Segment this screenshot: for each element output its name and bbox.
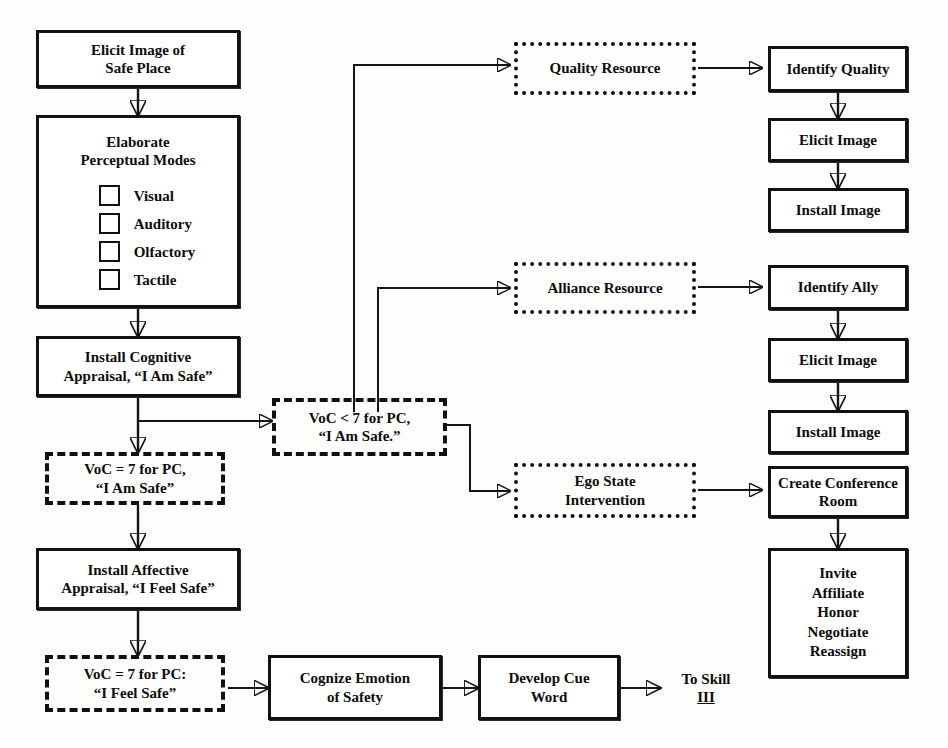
node-voc-equals-7-i-feel-safe[interactable]: VoC = 7 for PC: “I Feel Safe”	[45, 655, 225, 712]
node-alliance-resource[interactable]: Alliance Resource	[514, 262, 696, 314]
node-line: Identify Ally	[798, 278, 878, 296]
node-install-affective-appraisal[interactable]: Install Affective Appraisal, “I Feel Saf…	[36, 548, 240, 610]
checkbox-icon[interactable]	[99, 213, 120, 234]
flowchart-canvas: Elicit Image of Safe Place Elaborate Per…	[0, 0, 948, 748]
node-conference-actions[interactable]: Invite Affiliate Honor Negotiate Reassig…	[768, 548, 908, 678]
node-to-skill-iii: To Skill III	[660, 664, 752, 712]
elaborate-title: Elaborate Perceptual Modes	[80, 133, 195, 170]
node-line: Safe Place	[105, 59, 170, 77]
edge-voc-less7-to-quality	[354, 65, 510, 412]
node-line: Affiliate	[812, 584, 864, 604]
node-elaborate-perceptual-modes[interactable]: Elaborate Perceptual Modes Visual Audito…	[36, 115, 240, 308]
edge-voc-less7-to-egostate	[447, 425, 510, 491]
node-line: Elicit Image	[799, 351, 877, 369]
node-line: VoC = 7 for PC,	[84, 460, 185, 478]
mode-label: Visual	[134, 187, 174, 205]
node-line: “I Am Safe”	[96, 479, 174, 497]
mode-label: Tactile	[134, 271, 177, 289]
node-line: Alliance Resource	[547, 279, 662, 297]
node-line: Install Image	[796, 201, 881, 219]
node-voc-equals-7-i-am-safe[interactable]: VoC = 7 for PC, “I Am Safe”	[45, 452, 225, 505]
mode-row-visual[interactable]: Visual	[99, 185, 174, 206]
node-line: Install Affective	[87, 561, 188, 579]
node-line: III	[697, 688, 715, 706]
node-identify-quality[interactable]: Identify Quality	[768, 46, 908, 92]
node-elicit-image-quality[interactable]: Elicit Image	[768, 118, 908, 162]
node-line: Create Conference	[778, 474, 898, 492]
node-elicit-image-safe-place[interactable]: Elicit Image of Safe Place	[36, 30, 240, 88]
edge-voc-less7-to-alliance	[378, 288, 510, 412]
node-line: Cognize Emotion	[300, 669, 410, 687]
node-line: Develop Cue	[508, 669, 589, 687]
node-line: Perceptual Modes	[80, 151, 195, 169]
node-line: Room	[819, 492, 857, 510]
node-identify-ally[interactable]: Identify Ally	[768, 265, 908, 310]
node-line: of Safety	[327, 688, 383, 706]
node-line: To Skill	[681, 670, 730, 688]
node-line: Intervention	[565, 491, 645, 509]
conference-action-list: Invite Affiliate Honor Negotiate Reassig…	[808, 564, 869, 662]
node-install-image-ally[interactable]: Install Image	[768, 410, 908, 454]
node-line: Appraisal, “I Am Safe”	[63, 367, 212, 385]
node-line: VoC = 7 for PC:	[84, 665, 187, 683]
mode-label: Olfactory	[134, 243, 196, 261]
node-ego-state-intervention[interactable]: Ego State Intervention	[514, 463, 696, 518]
node-develop-cue-word[interactable]: Develop Cue Word	[478, 655, 620, 720]
perceptual-modes-list: Visual Auditory Olfactory Tactile	[81, 185, 196, 290]
mode-row-tactile[interactable]: Tactile	[99, 269, 177, 290]
node-line: Appraisal, “I Feel Safe”	[61, 579, 214, 597]
node-line: “I Am Safe.”	[318, 427, 400, 445]
node-line: Ego State	[574, 472, 635, 490]
node-cognize-emotion-of-safety[interactable]: Cognize Emotion of Safety	[268, 655, 442, 720]
node-line: Negotiate	[808, 623, 869, 643]
node-line: Install Cognitive	[85, 348, 191, 366]
node-elicit-image-ally[interactable]: Elicit Image	[768, 338, 908, 382]
node-line: Elaborate	[80, 133, 195, 151]
node-line: Reassign	[810, 642, 867, 662]
node-line: Install Image	[796, 423, 881, 441]
node-line: Elicit Image	[799, 131, 877, 149]
node-line: Honor	[817, 603, 859, 623]
node-install-image-quality[interactable]: Install Image	[768, 188, 908, 232]
checkbox-icon[interactable]	[99, 185, 120, 206]
mode-row-auditory[interactable]: Auditory	[99, 213, 192, 234]
node-line: VoC < 7 for PC,	[309, 409, 410, 427]
mode-row-olfactory[interactable]: Olfactory	[99, 241, 196, 262]
node-voc-less-than-7-i-am-safe[interactable]: VoC < 7 for PC, “I Am Safe.”	[272, 398, 447, 456]
node-line: Elicit Image of	[91, 41, 185, 59]
mode-label: Auditory	[134, 215, 192, 233]
node-line: Word	[531, 688, 568, 706]
node-line: “I Feel Safe”	[94, 684, 176, 702]
node-quality-resource[interactable]: Quality Resource	[514, 42, 696, 95]
checkbox-icon[interactable]	[99, 241, 120, 262]
node-create-conference-room[interactable]: Create Conference Room	[768, 466, 908, 518]
node-line: Invite	[819, 564, 857, 584]
node-line: Quality Resource	[550, 59, 661, 77]
node-install-cognitive-appraisal[interactable]: Install Cognitive Appraisal, “I Am Safe”	[36, 336, 240, 397]
checkbox-icon[interactable]	[99, 269, 120, 290]
node-line: Identify Quality	[787, 60, 890, 78]
